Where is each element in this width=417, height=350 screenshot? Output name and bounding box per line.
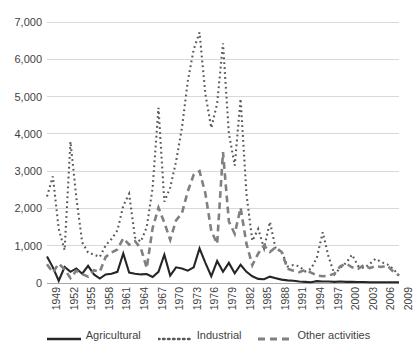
chart-legend: AgriculturalIndustrialOther activities: [0, 325, 417, 345]
legend-swatch-icon: [158, 330, 192, 340]
x-axis-tick-label: 1994: [315, 287, 326, 310]
series-line-agricultural: [47, 248, 399, 282]
x-axis-tick-label: 1982: [245, 287, 256, 310]
x-axis-tick-label: 1958: [104, 287, 115, 310]
x-axis-tick-label: 1979: [227, 287, 238, 310]
plot-area: [47, 22, 399, 283]
x-axis-tick-label: 1985: [262, 287, 273, 310]
x-axis-tick-label: 1961: [121, 287, 132, 310]
legend-label: Other activities: [297, 330, 370, 341]
x-axis-tick-label: 1988: [280, 287, 291, 310]
x-axis: 1949195219551958196119641967197019731976…: [47, 287, 399, 321]
series-layer: [47, 22, 399, 283]
y-axis-tick-label: 0: [36, 278, 42, 289]
x-axis-tick-label: 2003: [368, 287, 379, 310]
legend-label: Industrial: [197, 330, 242, 341]
x-axis-tick-label: 1976: [209, 287, 220, 310]
x-axis-tick-label: 2006: [385, 287, 396, 310]
legend-item-other-activities[interactable]: Other activities: [258, 330, 370, 341]
y-axis-tick-label: 7,000: [14, 17, 42, 28]
x-axis-tick-label: 1991: [297, 287, 308, 310]
legend-item-industrial[interactable]: Industrial: [158, 330, 242, 341]
y-axis-tick-label: 5,000: [14, 91, 42, 102]
legend-swatch-icon: [47, 330, 81, 340]
line-chart: 01,0002,0003,0004,0005,0006,0007,000 194…: [0, 0, 417, 350]
x-axis-tick-label: 1997: [333, 287, 344, 310]
x-axis-tick-label: 2000: [350, 287, 361, 310]
legend-item-agricultural[interactable]: Agricultural: [47, 330, 141, 341]
x-axis-tick-label: 1949: [51, 287, 62, 310]
y-axis-tick-label: 2,000: [14, 203, 42, 214]
y-axis-tick-label: 1,000: [14, 240, 42, 251]
x-axis-tick-label: 2009: [403, 287, 414, 310]
y-axis-tick-label: 6,000: [14, 54, 42, 65]
y-axis-tick-label: 3,000: [14, 166, 42, 177]
x-axis-tick-label: 1955: [86, 287, 97, 310]
y-axis-tick-label: 4,000: [14, 128, 42, 139]
x-axis-tick-label: 1964: [139, 287, 150, 310]
legend-swatch-icon: [258, 330, 292, 340]
x-axis-tick-label: 1952: [69, 287, 80, 310]
x-axis-tick-label: 1967: [157, 287, 168, 310]
legend-label: Agricultural: [86, 330, 141, 341]
x-axis-tick-label: 1970: [174, 287, 185, 310]
y-axis: 01,0002,0003,0004,0005,0006,0007,000: [0, 22, 42, 283]
x-axis-tick-label: 1973: [192, 287, 203, 310]
series-line-other-activities: [47, 152, 399, 278]
